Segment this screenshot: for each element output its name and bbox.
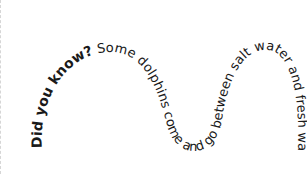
lead-question: Did you know? <box>29 42 95 148</box>
curved-fact-text: Did you know? Some dolphins come and go … <box>0 0 307 154</box>
wavy-text-graphic: Did you know? Some dolphins come and go … <box>0 0 307 174</box>
